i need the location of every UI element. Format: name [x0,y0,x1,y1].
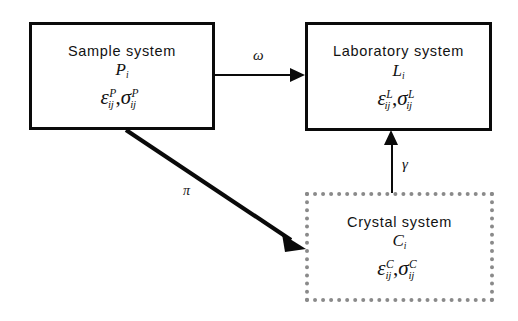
vector-subscript-c: i [404,241,407,251]
edge-label-pi: π [183,184,190,198]
edge-sample-to-laboratory-line [215,74,292,77]
stress-superscript-l: L [408,88,414,100]
strain-symbol-c: εCij [377,258,398,279]
vector-subscript-l: i [402,70,405,80]
vector-subscript-p: i [126,70,129,80]
node-laboratory-system[interactable]: Laboratory system Li εLij,σLij [305,22,492,131]
strain-subscript-c: ij [386,269,392,281]
strain-symbol-p: εPij [100,87,121,108]
node-laboratory-system-tensors: εLij,σLij [378,88,420,109]
node-crystal-system-tensors: εCij,σCij [377,258,421,279]
stress-subscript-c: ij [408,269,414,281]
stress-subscript-l: ij [406,99,412,111]
node-crystal-system-vector: Ci [393,232,407,251]
edge-crystal-to-laboratory-line [391,144,394,193]
edge-crystal-to-laboratory-arrowhead [384,130,398,145]
node-sample-system-tensors: εPij,σPij [100,87,143,108]
edge-sample-to-laboratory-arrowhead [290,68,305,82]
node-sample-system-title: Sample system [68,44,176,59]
stress-symbol-c: σCij [398,258,422,279]
stress-subscript-p: ij [130,98,136,110]
stress-symbol-l: σLij [397,88,419,109]
vector-symbol-l: L [392,61,401,80]
edge-sample-to-crystal-arrowhead [282,234,306,252]
node-sample-system[interactable]: Sample system Pi εPij,σPij [29,22,215,130]
vector-symbol-c: C [393,231,404,250]
strain-subscript-l: ij [385,99,391,111]
node-crystal-system[interactable]: Crystal system Ci εCij,σCij [305,192,494,302]
node-laboratory-system-vector: Li [392,62,404,81]
strain-superscript-l: L [386,88,392,100]
strain-subscript-p: ij [108,98,114,110]
stress-symbol-p: σPij [121,87,144,108]
node-laboratory-system-title: Laboratory system [333,44,464,59]
edge-label-gamma: γ [402,157,408,172]
diagram-canvas: Sample system Pi εPij,σPij Laboratory sy… [0,0,518,321]
node-crystal-system-title: Crystal system [347,215,452,230]
edge-sample-to-crystal-line [126,130,291,240]
edge-label-omega: ω [253,48,264,63]
node-sample-system-vector: Pi [115,61,128,80]
vector-symbol-p: P [115,60,125,79]
strain-symbol-l: εLij [378,88,398,109]
